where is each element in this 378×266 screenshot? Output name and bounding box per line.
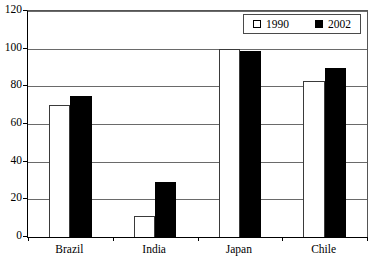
x-axis-separator-2 xyxy=(198,237,199,241)
legend-label-1990: 1990 xyxy=(266,18,289,30)
bar-group-india xyxy=(113,11,198,237)
bar-brazil-1990 xyxy=(49,105,70,237)
x-axis-separator-0 xyxy=(28,237,29,241)
y-tick-label-20: 20 xyxy=(11,193,23,205)
hollow-square-icon xyxy=(253,20,261,28)
y-tick-label-80: 80 xyxy=(11,80,23,92)
x-axis-labels: BrazilIndiaJapanChile xyxy=(27,242,368,262)
x-tick-label-india: India xyxy=(142,242,166,256)
x-axis-separator-1 xyxy=(113,237,114,241)
x-axis-separator-end xyxy=(367,237,368,241)
bar-india-1990 xyxy=(134,216,155,237)
plot-area xyxy=(27,10,368,238)
legend-entry-1990: 1990 xyxy=(253,18,289,30)
y-tick-label-120: 120 xyxy=(5,4,22,16)
x-tick-label-japan: Japan xyxy=(226,242,252,256)
y-tick-label-0: 0 xyxy=(16,230,22,242)
y-axis: 020406080100120 xyxy=(0,10,27,238)
bar-chart: 020406080100120 BrazilIndiaJapanChile 19… xyxy=(0,0,378,266)
bar-group-chile xyxy=(282,11,367,237)
y-tick-label-40: 40 xyxy=(11,155,23,167)
x-axis-separator-3 xyxy=(282,237,283,241)
legend-label-2002: 2002 xyxy=(328,18,351,30)
bar-japan-1990 xyxy=(219,49,240,237)
bar-chile-1990 xyxy=(303,81,324,237)
x-tick-label-brazil: Brazil xyxy=(55,242,83,256)
filled-square-icon xyxy=(315,20,323,28)
bar-india-2002 xyxy=(155,182,176,237)
y-tick-label-100: 100 xyxy=(5,42,22,54)
bar-group-brazil xyxy=(28,11,113,237)
x-tick-label-chile: Chile xyxy=(311,242,336,256)
legend-entry-2002: 2002 xyxy=(315,18,351,30)
bars-layer xyxy=(28,11,367,237)
bar-chile-2002 xyxy=(325,68,346,238)
bar-group-japan xyxy=(198,11,283,237)
bar-japan-2002 xyxy=(240,51,261,237)
y-tick-label-60: 60 xyxy=(11,117,23,129)
chart-legend: 1990 2002 xyxy=(243,14,361,34)
bar-brazil-2002 xyxy=(70,96,91,237)
